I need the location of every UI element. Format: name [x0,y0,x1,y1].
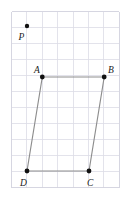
vertex-b-dot [102,75,107,80]
vertex-a-label: A [33,65,40,75]
point-p-dot [25,24,29,28]
vertex-c-dot [87,169,92,174]
figure-background [0,0,127,200]
vertex-b-label: B [108,65,114,75]
vertex-d-dot [25,169,30,174]
parallelogram-figure: PABCD [0,0,127,200]
point-p-label: P [18,32,25,42]
vertex-d-label: D [19,178,27,188]
figure-canvas: PABCD [0,0,127,200]
vertex-a-dot [40,75,45,80]
vertex-c-label: C [87,178,94,188]
